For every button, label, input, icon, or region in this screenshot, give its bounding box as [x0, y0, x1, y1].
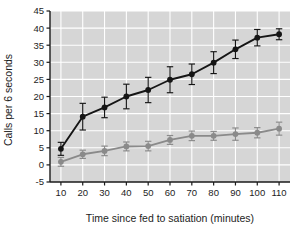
x-axis-title: Time since fed to satiation (minutes) — [86, 212, 254, 224]
data-point — [123, 144, 129, 150]
data-point — [233, 131, 239, 137]
data-point — [189, 133, 195, 139]
data-point — [145, 87, 151, 93]
data-point — [254, 35, 260, 41]
chart-figure: -5051015202530354045 1020304050607080901… — [0, 0, 303, 229]
data-point — [102, 105, 108, 111]
x-tick-label: 100 — [249, 187, 265, 198]
data-point — [211, 60, 217, 66]
data-point — [102, 148, 108, 154]
data-point — [58, 159, 64, 165]
y-tick-label: 5 — [39, 142, 44, 153]
x-tick-label: 80 — [208, 187, 219, 198]
x-tick-label: 20 — [77, 187, 88, 198]
y-tick-label: 40 — [33, 23, 44, 34]
y-tick-labels: -5051015202530354045 — [33, 5, 44, 187]
data-point — [58, 146, 64, 152]
x-tick-labels: 102030405060708090100110 — [56, 187, 287, 198]
y-tick-label: -5 — [36, 176, 44, 187]
data-point — [123, 94, 129, 100]
data-point — [167, 137, 173, 143]
data-point — [80, 114, 86, 120]
y-tick-label: 0 — [39, 159, 44, 170]
y-tick-label: 30 — [33, 57, 44, 68]
data-point — [254, 130, 260, 136]
data-point — [145, 143, 151, 149]
data-point — [233, 46, 239, 52]
x-tick-label: 110 — [272, 187, 287, 198]
data-point — [167, 77, 173, 83]
y-tick-label: 35 — [33, 40, 44, 51]
x-tick-label: 10 — [56, 187, 67, 198]
x-tick-label: 90 — [230, 187, 241, 198]
x-tick-label: 30 — [99, 187, 110, 198]
data-point — [80, 151, 86, 157]
y-tick-label: 10 — [33, 125, 44, 136]
data-point — [189, 71, 195, 77]
y-tick-label: 20 — [33, 91, 44, 102]
data-point — [276, 31, 282, 37]
data-point — [276, 126, 282, 132]
x-tick-label: 70 — [187, 187, 198, 198]
line-chart: -5051015202530354045 1020304050607080901… — [0, 0, 303, 229]
y-tick-label: 45 — [33, 5, 44, 16]
x-tick-label: 50 — [143, 187, 154, 198]
x-tick-label: 40 — [121, 187, 132, 198]
y-tick-label: 15 — [33, 108, 44, 119]
x-tick-label: 60 — [165, 187, 176, 198]
y-tick-label: 25 — [33, 74, 44, 85]
data-point — [211, 133, 217, 139]
y-axis-title: Calls per 6 seconds — [2, 54, 14, 146]
